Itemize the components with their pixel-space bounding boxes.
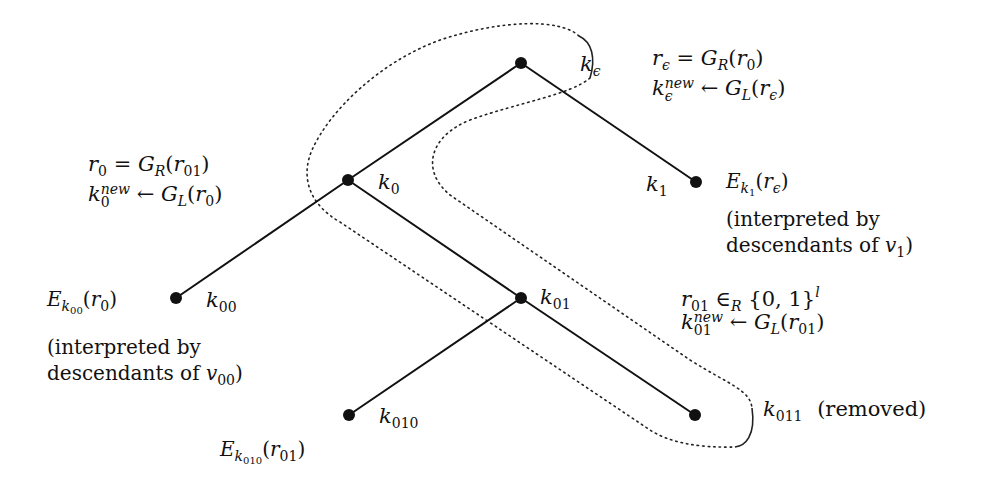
- k010-encryption-note: Ek010(r01): [220, 436, 305, 474]
- k1-interpreted-line: (interpreted by: [726, 206, 913, 232]
- k0-equation-1: r0 = GR(r01): [88, 152, 210, 183]
- k1-descendants-line: descendants of v1): [726, 232, 913, 265]
- node-k011: [689, 409, 701, 421]
- k00-encryption-note: Ek00(r0) (interpreted by descendants of …: [47, 286, 243, 393]
- removed-note: (removed): [817, 397, 926, 421]
- k00-descendants-line: descendants of v00): [47, 360, 243, 393]
- edge-root-k0: [348, 63, 521, 180]
- root-equation-2: knewϵ ← GL(rϵ): [652, 76, 785, 107]
- tree-edges: [176, 63, 696, 415]
- edge-k01-k010: [349, 298, 521, 415]
- label-k01: k01: [540, 285, 571, 316]
- node-root: [515, 57, 527, 69]
- label-k011: k011 (removed): [763, 397, 926, 428]
- k00-interpreted-line: (interpreted by: [47, 334, 243, 360]
- k01-equation-2: knew01 ← GL(r01): [681, 310, 824, 341]
- node-k010: [343, 409, 355, 421]
- node-k0: [342, 174, 354, 186]
- label-k1: k1: [646, 172, 668, 203]
- edge-k0-k01: [348, 180, 521, 298]
- label-k0: k0: [378, 170, 400, 201]
- k00-encryption-formula: Ek00(r0): [47, 286, 243, 324]
- root-equation-1: rϵ = GR(r0): [652, 46, 764, 77]
- node-k01: [515, 292, 527, 304]
- enclosure-solid-bottom: [735, 408, 753, 447]
- label-k-epsilon: kϵ: [580, 52, 601, 83]
- label-k010: k010: [379, 404, 418, 435]
- dotted-path-enclosure-inner: [433, 78, 752, 408]
- k1-encryption-formula: Ek1(rϵ): [726, 168, 913, 206]
- node-k1: [690, 176, 702, 188]
- k1-encryption-note: Ek1(rϵ) (interpreted by descendants of v…: [726, 168, 913, 265]
- k0-equation-2: knew0 ← GL(r0): [88, 182, 222, 213]
